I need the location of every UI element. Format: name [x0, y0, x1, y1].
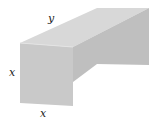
label-y: y [48, 13, 54, 24]
front-face [20, 43, 73, 106]
box-diagram [0, 0, 157, 125]
label-x-left: x [9, 67, 15, 78]
label-x-bottom: x [40, 108, 46, 119]
